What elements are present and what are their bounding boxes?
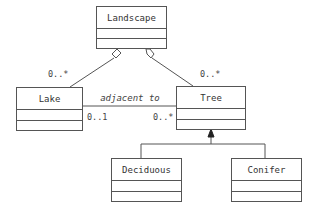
multiplicity-lake-aggregation: 0..* [48,69,68,79]
class-deciduous[interactable]: Deciduous [112,159,182,202]
multiplicity-tree-aggregation: 0..* [200,69,220,79]
generalization-branch-line [141,144,265,158]
aggregation-line-lake [70,58,114,87]
class-name-landscape: Landscape [107,13,156,23]
class-name-deciduous: Deciduous [122,165,171,175]
multiplicity-lake-association: 0..1 [87,112,107,122]
class-name-lake: Lake [39,94,61,104]
class-tree[interactable]: Tree [177,87,246,130]
class-landscape[interactable]: Landscape [97,7,167,49]
class-name-conifer: Conifer [248,165,287,175]
multiplicity-tree-association: 0..* [153,112,173,122]
aggregation-line-tree [152,58,193,86]
aggregation-diamond-icon [112,49,121,58]
generalization-tree [141,129,265,158]
class-name-tree: Tree [200,93,222,103]
association-label-adjacent-to: adjacent to [100,93,160,103]
aggregation-landscape-tree [146,49,193,86]
aggregation-diamond-icon [146,49,154,58]
aggregation-landscape-lake [70,49,121,87]
uml-class-diagram: Landscape Lake Tree Deciduous Conifer 0.… [0,0,317,213]
class-lake[interactable]: Lake [17,88,83,131]
inheritance-arrow-icon [208,129,214,137]
class-conifer[interactable]: Conifer [232,159,302,202]
